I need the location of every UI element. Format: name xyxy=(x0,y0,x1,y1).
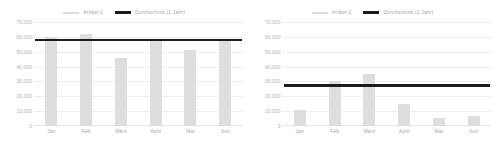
y-tick-label: 20.000 xyxy=(265,94,281,99)
y-axis-2: 70.000 60.000 50.000 40.000 30.000 20.00… xyxy=(253,22,281,126)
bar-april[interactable] xyxy=(150,41,162,126)
y-tick-label: 60.000 xyxy=(265,34,281,39)
bar-slot xyxy=(34,22,69,126)
x-tick-label: Feb xyxy=(317,129,352,141)
y-tick-label: 20.000 xyxy=(16,94,32,99)
bar-slot xyxy=(69,22,104,126)
legend-item-series-2[interactable]: Artikel 2 xyxy=(312,10,352,15)
x-tick-label: März xyxy=(352,129,387,141)
legend-average-line-icon xyxy=(363,11,379,14)
bar-juni[interactable] xyxy=(219,41,231,126)
bar-slot xyxy=(104,22,139,126)
plot-area-1 xyxy=(34,22,243,126)
x-tick-label: April xyxy=(138,129,173,141)
x-tick-label: April xyxy=(387,129,422,141)
chart-legend-2: Artikel 2 Durchschnitt (1 Jahr) xyxy=(249,7,497,19)
bar-group-2 xyxy=(283,22,492,126)
bar-feb[interactable] xyxy=(80,34,92,126)
y-tick-label: 50.000 xyxy=(265,49,281,54)
x-tick-label: Juni xyxy=(208,129,243,141)
bar-slot xyxy=(173,22,208,126)
y-tick-label: 30.000 xyxy=(16,79,32,84)
x-tick-label: Jan xyxy=(34,129,69,141)
legend-average-label: Durchschnitt (1 Jahr) xyxy=(135,10,185,15)
y-tick-label: 50.000 xyxy=(16,49,32,54)
y-tick-label: 40.000 xyxy=(265,64,281,69)
bar-slot xyxy=(283,22,318,126)
x-tick-label: Jan xyxy=(283,129,318,141)
y-tick-label: 70.000 xyxy=(16,20,32,25)
y-axis-1: 70.000 60.000 50.000 40.000 30.000 20.00… xyxy=(4,22,32,126)
legend-series-line-icon xyxy=(63,12,79,14)
bar-group-1 xyxy=(34,22,243,126)
bar-slot xyxy=(208,22,243,126)
plot-wrap-1: 70.000 60.000 50.000 40.000 30.000 20.00… xyxy=(0,22,249,150)
legend-item-average-1[interactable]: Durchschnitt (1 Jahr) xyxy=(115,10,185,15)
bar-mai[interactable] xyxy=(184,50,196,126)
y-tick-label: 30.000 xyxy=(265,79,281,84)
bar-juni[interactable] xyxy=(468,116,480,126)
legend-series-label: Artikel 1 xyxy=(83,10,103,15)
chart-legend-1: Artikel 1 Durchschnitt (1 Jahr) xyxy=(0,7,249,19)
x-tick-label: Mai xyxy=(422,129,457,141)
x-axis-2: Jan Feb März April Mai Juni xyxy=(283,129,492,141)
bar-slot xyxy=(352,22,387,126)
y-tick-label: 0 xyxy=(278,124,281,129)
plot-wrap-2: 70.000 60.000 50.000 40.000 30.000 20.00… xyxy=(249,22,497,150)
y-tick-label: 0 xyxy=(29,124,32,129)
bar-märz[interactable] xyxy=(115,58,127,126)
x-tick-label: März xyxy=(104,129,139,141)
bar-slot xyxy=(317,22,352,126)
bar-slot xyxy=(456,22,491,126)
legend-average-line-icon xyxy=(115,11,131,14)
bar-feb[interactable] xyxy=(329,81,341,126)
bar-april[interactable] xyxy=(398,104,410,126)
x-axis-1: Jan Feb März April Mai Juni xyxy=(34,129,243,141)
legend-item-series-1[interactable]: Artikel 1 xyxy=(63,10,103,15)
bar-märz[interactable] xyxy=(363,74,375,126)
y-tick-label: 10.000 xyxy=(265,109,281,114)
y-tick-label: 60.000 xyxy=(16,34,32,39)
average-line-1 xyxy=(35,39,242,41)
bar-slot xyxy=(422,22,457,126)
charts-row: Artikel 1 Durchschnitt (1 Jahr) 70.000 6… xyxy=(0,0,497,150)
chart-panel-artikel-2: Artikel 2 Durchschnitt (1 Jahr) 70.000 6… xyxy=(249,0,497,150)
bar-slot xyxy=(387,22,422,126)
bar-slot xyxy=(138,22,173,126)
y-tick-label: 10.000 xyxy=(16,109,32,114)
legend-series-label: Artikel 2 xyxy=(332,10,352,15)
bar-jan[interactable] xyxy=(45,37,57,126)
legend-series-line-icon xyxy=(312,12,328,14)
plot-area-2 xyxy=(283,22,492,126)
x-tick-label: Feb xyxy=(69,129,104,141)
bar-mai[interactable] xyxy=(433,118,445,126)
bar-jan[interactable] xyxy=(294,110,306,126)
legend-average-label: Durchschnitt (1 Jahr) xyxy=(383,10,433,15)
x-tick-label: Juni xyxy=(456,129,491,141)
y-tick-label: 40.000 xyxy=(16,64,32,69)
legend-item-average-2[interactable]: Durchschnitt (1 Jahr) xyxy=(363,10,433,15)
x-tick-label: Mai xyxy=(173,129,208,141)
chart-panel-artikel-1: Artikel 1 Durchschnitt (1 Jahr) 70.000 6… xyxy=(0,0,249,150)
average-line-2 xyxy=(284,84,491,86)
y-tick-label: 70.000 xyxy=(265,20,281,25)
